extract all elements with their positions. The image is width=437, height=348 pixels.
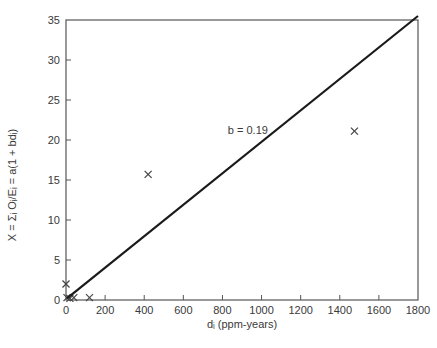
x-tick-label: 1200 bbox=[288, 304, 312, 316]
y-tick-label: 25 bbox=[48, 94, 60, 106]
x-tick-label: 800 bbox=[213, 304, 231, 316]
x-tick-label: 400 bbox=[135, 304, 153, 316]
x-tick-label: 0 bbox=[63, 304, 69, 316]
x-tick-label: 1600 bbox=[367, 304, 391, 316]
y-axis-ticks: 05101520253035 bbox=[48, 14, 71, 306]
x-tick-label: 1800 bbox=[406, 304, 430, 316]
data-series bbox=[63, 16, 419, 302]
fitted-line bbox=[67, 16, 418, 298]
x-axis-ticks: 020040060080010001200140016001800 bbox=[63, 295, 430, 316]
y-tick-label: 30 bbox=[48, 54, 60, 66]
x-tick-label: 1400 bbox=[328, 304, 352, 316]
y-tick-label: 0 bbox=[54, 294, 60, 306]
y-tick-label: 5 bbox=[54, 254, 60, 266]
y-tick-label: 10 bbox=[48, 214, 60, 226]
x-axis-title: dᵢ (ppm-years) bbox=[207, 318, 277, 330]
data-point-x-marker bbox=[351, 128, 358, 135]
x-tick-label: 600 bbox=[174, 304, 192, 316]
x-tick-label: 200 bbox=[96, 304, 114, 316]
x-tick-label: 1000 bbox=[249, 304, 273, 316]
y-axis-title: X = Σᵢ Oᵢ/Eᵢ = a(1 + bdᵢ) bbox=[6, 129, 18, 241]
y-tick-label: 15 bbox=[48, 174, 60, 186]
slope-annotation: b = 0.19 bbox=[228, 124, 268, 136]
y-tick-label: 20 bbox=[48, 134, 60, 146]
annotations: b = 0.19 bbox=[228, 124, 268, 136]
chart: 020040060080010001200140016001800 051015… bbox=[0, 0, 437, 348]
y-tick-label: 35 bbox=[48, 14, 60, 26]
data-point-x-marker bbox=[145, 171, 152, 178]
